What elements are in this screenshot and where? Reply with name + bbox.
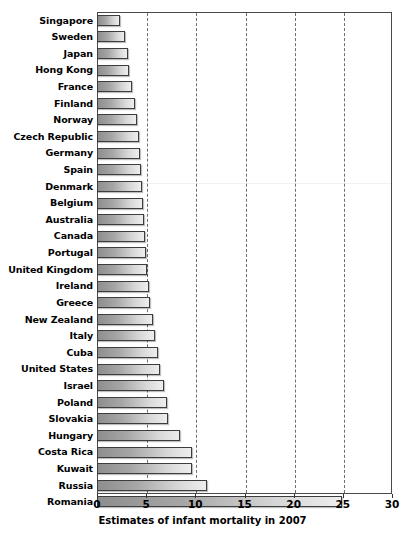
category-label: Cuba: [66, 348, 93, 358]
category-label: Russia: [59, 481, 93, 491]
bar-row: [97, 294, 392, 311]
category-label-row: Sweden: [0, 29, 93, 46]
category-label: Czech Republic: [13, 132, 93, 142]
category-label-row: Hungary: [0, 427, 93, 444]
bar: [97, 131, 139, 142]
bar: [97, 214, 144, 225]
category-label-row: Singapore: [0, 12, 93, 29]
category-label: Norway: [53, 115, 93, 125]
bar: [97, 15, 120, 26]
category-label: Belgium: [50, 198, 93, 208]
category-label: Poland: [57, 398, 93, 408]
bar: [97, 98, 135, 109]
category-label: United Kingdom: [8, 265, 93, 275]
category-label: Canada: [54, 231, 93, 241]
category-label-row: Czech Republic: [0, 128, 93, 145]
x-tick-label: 10: [188, 498, 203, 510]
bar: [97, 181, 142, 192]
category-label: Portugal: [48, 248, 93, 258]
category-label-row: Australia: [0, 211, 93, 228]
bar: [97, 65, 129, 76]
category-label: Hong Kong: [35, 65, 93, 75]
category-label-row: Romania: [0, 494, 93, 511]
category-label: Singapore: [39, 16, 93, 26]
bar: [97, 198, 143, 209]
bar-row: [97, 112, 392, 129]
category-label: Kuwait: [57, 464, 93, 474]
category-label-row: Portugal: [0, 245, 93, 262]
x-tick-label: 25: [336, 498, 351, 510]
bar-row: [97, 161, 392, 178]
bar: [97, 114, 137, 125]
category-label-row: Kuwait: [0, 460, 93, 477]
category-label: Greece: [56, 298, 93, 308]
bar: [97, 31, 125, 42]
bar-row: [97, 394, 392, 411]
bar-row: [97, 261, 392, 278]
bar-row: [97, 328, 392, 345]
bar-row: [97, 145, 392, 162]
category-label-row: Belgium: [0, 195, 93, 212]
bar: [97, 364, 160, 375]
category-label: Italy: [70, 331, 93, 341]
bar: [97, 231, 145, 242]
category-label-row: Norway: [0, 112, 93, 129]
category-label-row: United Kingdom: [0, 261, 93, 278]
bar-row: [97, 78, 392, 95]
category-label-row: United States: [0, 361, 93, 378]
x-tick-label: 20: [286, 498, 301, 510]
bar: [97, 148, 140, 159]
category-label: Spain: [63, 165, 93, 175]
category-label: Denmark: [45, 182, 93, 192]
bar: [97, 314, 153, 325]
bar: [97, 380, 164, 391]
bar: [97, 397, 167, 408]
x-tick-label: 0: [93, 498, 100, 510]
bar-row: [97, 128, 392, 145]
bar-row: [97, 195, 392, 212]
bar: [97, 413, 168, 424]
bar-row: [97, 45, 392, 62]
category-label-row: Canada: [0, 228, 93, 245]
bar-row: [97, 211, 392, 228]
category-label-row: Poland: [0, 394, 93, 411]
category-label-row: Cuba: [0, 344, 93, 361]
category-axis: SingaporeSwedenJapanHong KongFranceFinla…: [0, 12, 93, 494]
bar-row: [97, 245, 392, 262]
category-label-row: Italy: [0, 328, 93, 345]
bar-row: [97, 95, 392, 112]
category-label: Australia: [46, 215, 93, 225]
category-label: France: [58, 82, 93, 92]
bar-row: [97, 311, 392, 328]
bar: [97, 347, 158, 358]
category-label-row: Spain: [0, 161, 93, 178]
category-label: United States: [21, 364, 93, 374]
infant-mortality-bar-chart: SingaporeSwedenJapanHong KongFranceFinla…: [0, 0, 405, 539]
bar-row: [97, 377, 392, 394]
bar: [97, 281, 149, 292]
x-tick-label: 15: [237, 498, 252, 510]
bar-row: [97, 278, 392, 295]
category-label: Costa Rica: [38, 447, 93, 457]
category-label: Ireland: [56, 281, 93, 291]
category-label: Sweden: [52, 32, 93, 42]
bar-row: [97, 460, 392, 477]
bar-row: [97, 344, 392, 361]
category-label-row: Denmark: [0, 178, 93, 195]
category-label: Slovakia: [49, 414, 93, 424]
category-label-row: Greece: [0, 294, 93, 311]
bar-row: [97, 444, 392, 461]
bar: [97, 447, 192, 458]
bar-row: [97, 29, 392, 46]
bar-row: [97, 427, 392, 444]
category-label-row: Ireland: [0, 278, 93, 295]
category-label-row: Slovakia: [0, 411, 93, 428]
category-label-row: Hong Kong: [0, 62, 93, 79]
category-label-row: France: [0, 78, 93, 95]
bar: [97, 264, 147, 275]
bar-row: [97, 62, 392, 79]
bar: [97, 480, 207, 491]
bar-row: [97, 411, 392, 428]
category-label: Hungary: [48, 431, 93, 441]
bar: [97, 330, 155, 341]
